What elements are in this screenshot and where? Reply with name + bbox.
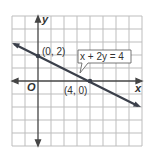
point-4-0 [88,79,93,84]
line-left-arrow-icon [12,43,20,49]
point-0-2 [36,54,41,59]
x-axis-left-arrow-icon [12,79,18,84]
y-axis-label: y [41,13,49,25]
coordinate-plane: y x O (0, 2) (4, 0) x + 2y = 4 [0,0,149,158]
x-axis-label: x [134,82,142,94]
y-axis-up-arrow-icon [36,16,41,22]
y-axis-down-arrow-icon [36,140,41,146]
origin-label: O [27,81,36,93]
point-label-0-2: (0, 2) [42,46,65,57]
line-right-arrow-icon [133,102,141,108]
point-label-4-0: (4, 0) [64,85,87,96]
equation-label: x + 2y = 4 [80,51,124,62]
